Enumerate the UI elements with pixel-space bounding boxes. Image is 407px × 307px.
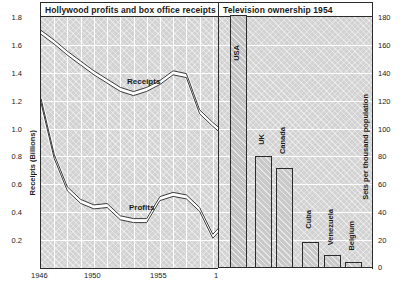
bar-ytick-180: 180 (378, 13, 398, 22)
bar-label-belgium: Belgium (347, 221, 356, 253)
bar-axis-title: Sets per thousand population (361, 94, 370, 202)
bar-cuba (302, 242, 319, 269)
bar-label-usa: USA (232, 45, 241, 63)
left-chart-panel: Hollywood profits and box office receipt… (20, 2, 248, 282)
ytick-left-1.8: 1.8 (0, 13, 22, 22)
bar-label-canada: Canada (278, 127, 287, 156)
left-axis-title: Receipts (Billions) (28, 130, 37, 197)
ytick-left-1.6: 1.6 (0, 41, 22, 50)
left-chart-y-axis (40, 17, 41, 269)
bar-label-venezuela: Venezuela (326, 209, 335, 247)
receipts-series-label: Receipts (127, 77, 160, 86)
right-chart-panel: Television ownership 1954 USA (218, 2, 388, 282)
profits-series-label: Profits (129, 203, 154, 212)
xtick-1955: 1955 (150, 271, 167, 280)
ytick-left-0.4: 0.4 (0, 208, 22, 217)
bar-venezuela (324, 255, 341, 268)
bar-uk (255, 156, 272, 268)
right-chart-y-axis (372, 17, 373, 269)
right-plot-area: USA UK Canada Cuba Venezuela Belgium (218, 17, 373, 268)
bar-ytick-40: 40 (378, 208, 398, 217)
right-chart-title: Television ownership 1954 (219, 5, 333, 15)
bar-ytick-100: 100 (378, 125, 398, 134)
left-chart-title-box: Hollywood profits and box office receipt… (40, 2, 225, 17)
profits-line (41, 101, 226, 237)
left-plot-area: Receipts Profits (40, 17, 225, 268)
bar-ytick-120: 120 (378, 97, 398, 106)
left-chart-title: Hollywood profits and box office receipt… (41, 5, 216, 15)
bar-ytick-80: 80 (378, 152, 398, 161)
left-chart-series (41, 17, 226, 268)
bar-ytick-140: 140 (378, 69, 398, 78)
bar-label-uk: UK (257, 134, 266, 147)
bar-label-cuba: Cuba (304, 210, 313, 231)
bar-belgium (345, 262, 362, 268)
bar-ytick-60: 60 (378, 180, 398, 189)
xtick-1946: 1946 (31, 271, 48, 280)
figure-root: Hollywood profits and box office receipt… (0, 0, 407, 307)
ytick-left-0.2: 0.2 (0, 236, 22, 245)
ytick-left-1.2: 1.2 (0, 97, 22, 106)
ytick-left-0.8: 0.8 (0, 152, 22, 161)
bar-ytick-20: 20 (378, 236, 398, 245)
bar-ytick-160: 160 (378, 41, 398, 50)
ytick-left-0.6: 0.6 (0, 180, 22, 189)
bar-canada (276, 168, 293, 268)
xtick-1950: 1950 (84, 271, 101, 280)
ytick-left-1.0: 1.0 (0, 125, 22, 134)
ytick-left-1.4: 1.4 (0, 69, 22, 78)
left-chart-x-axis (40, 268, 226, 269)
bar-ytick-0: 0 (378, 263, 398, 272)
